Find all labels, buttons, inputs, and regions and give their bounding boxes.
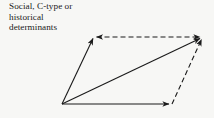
vector-origin-to-upper-left-icon <box>62 39 93 105</box>
vector-parallelogram-figure <box>0 0 214 118</box>
resultant-diagonal-icon <box>62 39 200 105</box>
diagram-page: Social, C-type or historical determinant… <box>0 0 214 118</box>
